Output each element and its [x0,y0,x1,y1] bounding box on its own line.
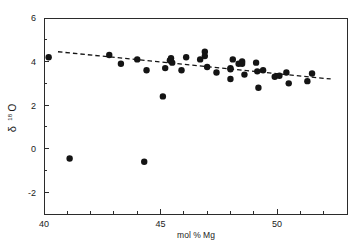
data-point [162,65,168,71]
data-point [141,159,147,165]
y-tick-label: 2 [31,101,36,111]
y-tick-label: -2 [28,188,36,198]
plot-canvas: -20246 404550 mol % Mg δ 18 O [0,0,359,250]
y-axis-ticks [44,18,49,214]
data-point [118,61,124,67]
axis-frame [44,18,347,214]
data-point [204,64,210,70]
data-point [202,53,208,59]
data-point [227,76,233,82]
data-point [276,73,282,79]
y-axis-title-symbol: δ [6,126,18,132]
data-point [178,67,184,73]
data-point [213,69,219,75]
data-point [134,56,140,62]
data-point [304,78,310,84]
y-axis-title-superscript: 18 [7,113,13,120]
data-point [169,59,175,65]
data-point-series [45,49,315,165]
x-axis-title: mol % Mg [177,230,215,240]
data-point [66,155,72,161]
plot-frame-border [44,18,347,214]
data-point [227,66,233,72]
x-tick-label: 40 [39,219,49,229]
y-tick-label: 6 [31,13,36,23]
data-point [160,93,166,99]
data-point [241,71,247,77]
y-tick-label: 0 [31,144,36,154]
data-point [255,84,261,90]
data-point [230,56,236,62]
data-point [253,59,259,65]
x-tick-label: 45 [156,219,166,229]
y-axis-title: δ 18 O [4,104,18,133]
data-point [286,80,292,86]
x-axis-tick-labels: 404550 [39,219,282,229]
data-point [239,61,245,67]
scatter-plot-figure: -20246 404550 mol % Mg δ 18 O [0,0,359,250]
data-point [106,52,112,58]
trend-line-group [58,52,331,79]
data-point [283,69,289,75]
data-point [254,68,260,74]
y-axis-tick-labels: -20246 [28,13,36,197]
y-axis-title-element: O [7,104,18,112]
x-axis-ticks [44,209,347,214]
data-point [309,70,315,76]
data-point [183,54,189,60]
x-tick-label: 50 [272,219,282,229]
y-tick-label: 4 [31,57,36,67]
svg-text:δ 18 O: δ 18 O [4,104,18,133]
data-point [45,54,51,60]
data-point [143,67,149,73]
regression-trend-line [58,52,331,79]
data-point [260,67,266,73]
